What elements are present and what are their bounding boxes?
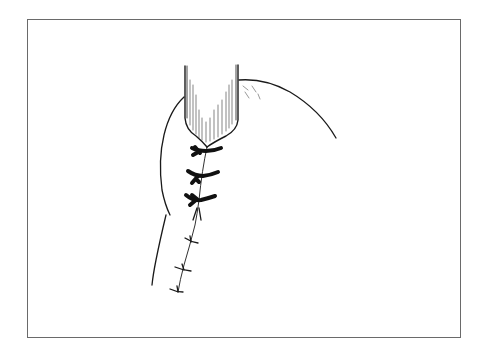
tube [185, 65, 238, 147]
surgical-illustration [0, 0, 483, 355]
left-contour [152, 97, 184, 285]
fine-sutures [170, 208, 201, 292]
heavy-sutures [186, 147, 221, 205]
